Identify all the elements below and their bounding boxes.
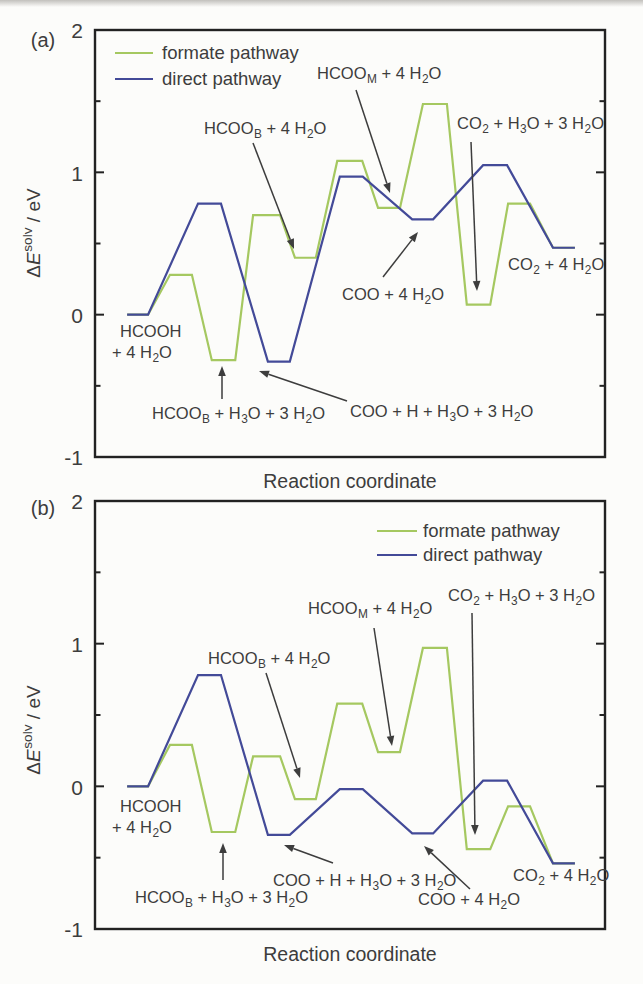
legend-label: formate pathway (423, 520, 561, 541)
annotation-arrow-head (473, 281, 481, 291)
x-axis-label: Reaction coordinate (263, 470, 436, 492)
annotation-text: + 4 H2O (112, 818, 172, 840)
y-tick-label: 2 (71, 19, 83, 42)
annotation-arrow (284, 845, 333, 863)
annotation-arrow-head (259, 371, 270, 378)
annotation-arrow-head (219, 843, 227, 853)
y-tick-label: -1 (64, 446, 83, 469)
annotation-text: HCOOM + 4 H2O (317, 64, 442, 86)
annotation-text: HCOOB + H3O + 3 H2O (152, 404, 325, 426)
annotation-arrow-head (383, 182, 390, 193)
panel-label: (a) (31, 29, 55, 51)
panel-a: 210-1formate pathwaydirect pathwayHCOOM … (20, 19, 605, 491)
y-tick-label: 2 (71, 490, 83, 513)
annotation-co2-4h2o: CO2 + 4 H2O (508, 255, 604, 277)
annotation-hcoob-h3o-3h2o: HCOOB + H3O + 3 H2O (152, 366, 325, 426)
annotation-arrow-line (471, 142, 477, 281)
annotation-text: CO2 + 4 H2O (508, 255, 604, 277)
annotation-arrow (259, 371, 347, 401)
annotation-co2-4h2o: CO2 + 4 H2O (513, 866, 609, 888)
annotation-text: CO2 + H3O + 3 H2O (448, 586, 595, 608)
annotation-coo-4h2o: COO + 4 H2O (342, 232, 444, 307)
annotation-arrow (374, 628, 394, 746)
annotation-arrow (471, 613, 479, 835)
series-formate-pathway (127, 648, 575, 863)
annotation-hcoom-4h2o: HCOOM + 4 H2O (308, 599, 433, 746)
energy-diagram-svg: 210-1formate pathwaydirect pathwayHCOOM … (0, 0, 643, 984)
annotation-text: COO + 4 H2O (342, 285, 444, 307)
annotation-text: HCOOH (120, 797, 181, 815)
x-axis-label: Reaction coordinate (263, 943, 436, 965)
annotation-arrow (471, 142, 480, 291)
annotation-text: COO + H + H3O + 3 H2O (350, 402, 534, 424)
annotation-arrow-line (293, 848, 333, 863)
annotation-text: + 4 H2O (112, 343, 172, 365)
annotation-arrow-head (387, 736, 395, 746)
y-tick-label: -1 (64, 918, 83, 941)
legend-label: direct pathway (423, 544, 543, 565)
y-tick-label: 0 (71, 776, 83, 799)
annotation-hcoom-4h2o: HCOOM + 4 H2O (317, 64, 442, 193)
annotation-text: HCOOB + H3O + 3 H2O (135, 888, 308, 910)
annotation-text: HCOOH (120, 322, 181, 340)
y-axis-label: ΔEsolv / eV (20, 188, 43, 278)
annotation-text: CO2 + H3O + 3 H2O (457, 114, 604, 136)
annotation-arrow-head (409, 232, 418, 242)
annotation-text: CO2 + 4 H2O (513, 866, 609, 888)
annotation-arrow-line (253, 143, 290, 240)
y-tick-label: 1 (71, 162, 83, 185)
panel-b: 210-1formate pathwaydirect pathwayCO2 + … (20, 490, 609, 964)
legend: formate pathwaydirect pathway (115, 42, 300, 89)
annotation-arrow-head (293, 767, 300, 778)
annotation-text: COO + 4 H2O (418, 890, 520, 912)
annotation-arrow-line (383, 240, 412, 277)
panel-label: (b) (31, 497, 55, 519)
figure-page: 210-1formate pathwaydirect pathwayHCOOM … (0, 0, 643, 984)
annotation-text: HCOOB + 4 H2O (204, 119, 327, 141)
annotation-arrow-line (374, 628, 390, 736)
annotation-arrow (218, 366, 226, 399)
annotation-co2-h3o-3h2o: CO2 + H3O + 3 H2O (448, 586, 595, 835)
annotation-arrow-line (268, 374, 347, 401)
annotation-hcooh-4h2o: HCOOH+ 4 H2O (112, 797, 181, 840)
annotation-arrow-head (471, 825, 479, 835)
annotation-arrow-head (218, 366, 226, 376)
annotation-hcoob-4h2o: HCOOB + 4 H2O (204, 119, 327, 249)
annotation-text: HCOOB + 4 H2O (208, 649, 331, 671)
annotation-arrow (219, 843, 227, 880)
annotation-hcoob-4h2o: HCOOB + 4 H2O (208, 649, 331, 778)
annotation-arrow-line (356, 90, 387, 184)
annotation-hcooh-4h2o: HCOOH+ 4 H2O (112, 322, 181, 365)
y-tick-label: 0 (71, 304, 83, 327)
legend: formate pathwaydirect pathway (377, 520, 561, 565)
annotation-arrow-line (266, 673, 297, 768)
legend-label: formate pathway (162, 42, 300, 63)
y-tick-label: 1 (71, 633, 83, 656)
legend-label: direct pathway (162, 68, 282, 89)
annotation-arrow-head (284, 845, 295, 852)
annotation-arrow (383, 232, 418, 277)
plot-frame (95, 30, 605, 457)
series-formate-pathway (127, 104, 575, 360)
annotation-text: HCOOM + 4 H2O (308, 599, 433, 621)
annotation-arrow (253, 143, 294, 249)
y-axis-label: ΔEsolv / eV (20, 685, 43, 775)
